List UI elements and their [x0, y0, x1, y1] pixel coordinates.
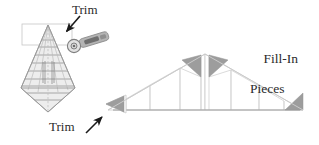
fill-in-pieces-label-line2: Pieces: [250, 81, 298, 96]
trim-label-top: Trim: [72, 3, 98, 18]
fill-in-pieces-label: Fill-In Pieces: [250, 36, 298, 127]
quilting-instruction-figure: Trim Trim Fill-In Pieces: [0, 0, 319, 145]
fill-in-pieces-label-line1: Fill-In: [264, 51, 299, 66]
trim-label-bottom: Trim: [49, 120, 75, 135]
